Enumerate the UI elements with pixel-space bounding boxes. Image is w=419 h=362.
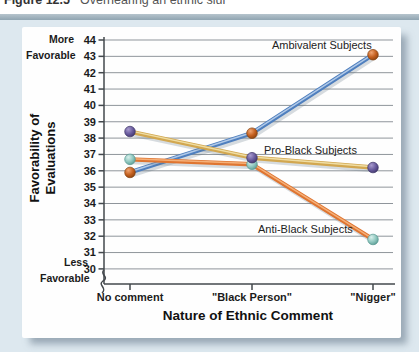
svg-text:32: 32 [84, 230, 96, 242]
y-axis-upper-label: More Favorable [26, 31, 74, 64]
series-label-ambivalent: Ambivalent Subjects [272, 39, 372, 51]
page: Figure 12.5Overhearing an ethnic slur 44… [0, 0, 419, 362]
y-axis-upper-label-line1: More [26, 31, 74, 47]
figure-caption-number: Figure 12.5 [4, 0, 70, 7]
svg-text:35: 35 [84, 181, 96, 193]
chart-svg: 444342414039383736353433323130No comment… [22, 27, 401, 338]
svg-text:No comment: No comment [97, 291, 164, 303]
series-label-anti-black: Anti-Black Subjects [258, 223, 353, 235]
svg-text:39: 39 [84, 116, 96, 128]
y-axis-title-line2: Evaluations [43, 98, 59, 218]
svg-text:37: 37 [84, 148, 96, 160]
y-axis-lower-label: Less Favorable [40, 254, 88, 287]
figure-caption: Figure 12.5Overhearing an ethnic slur [4, 0, 414, 13]
svg-text:36: 36 [84, 165, 96, 177]
svg-text:34: 34 [84, 197, 97, 209]
svg-text:42: 42 [84, 67, 96, 79]
y-axis-lower-label-line1: Less [40, 254, 88, 270]
figure-caption-text: Figure 12.5Overhearing an ethnic slur [4, 0, 414, 7]
series-label-pro-black: Pro-Black Subjects [264, 144, 357, 156]
svg-text:40: 40 [84, 99, 96, 111]
figure-caption-title: Overhearing an ethnic slur [80, 0, 227, 7]
x-axis-title: Nature of Ethnic Comment [118, 308, 378, 323]
svg-text:44: 44 [84, 34, 97, 46]
y-axis-lower-label-line2: Favorable [40, 270, 88, 286]
svg-text:43: 43 [84, 50, 96, 62]
svg-text:"Nigger": "Nigger" [350, 291, 395, 303]
svg-text:41: 41 [84, 83, 96, 95]
y-axis-title-line1: Favorability of [27, 98, 43, 218]
y-axis-title: Favorability of Evaluations [27, 98, 61, 218]
y-axis-upper-label-line2: Favorable [26, 47, 74, 63]
svg-text:38: 38 [84, 132, 96, 144]
svg-text:33: 33 [84, 214, 96, 226]
svg-text:"Black Person": "Black Person" [212, 291, 292, 303]
chart-panel: 444342414039383736353433323130No comment… [22, 27, 401, 338]
